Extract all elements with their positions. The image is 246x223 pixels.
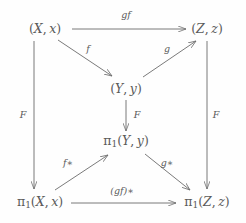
- edge-label-F-left: F: [20, 110, 27, 120]
- edge-label-f: f: [86, 44, 90, 54]
- edge-label-gf: gf: [121, 10, 131, 20]
- edge-label-f-star: f∗: [63, 158, 73, 168]
- node-Z-basepoint: (Z, z): [191, 23, 223, 36]
- node-X-basepoint: (X, x): [29, 23, 61, 36]
- edge-label-F-right: F: [213, 110, 220, 120]
- edge-label-g: g: [164, 44, 170, 54]
- node-pi1-Z: π1(Z, z): [184, 196, 230, 210]
- node-pi1-Y: π1(Y, y): [103, 135, 149, 149]
- edge-label-g-star: g∗: [161, 158, 174, 168]
- edge-label-F-center: F: [134, 110, 141, 120]
- node-pi1-X: π1(X, x): [17, 196, 63, 210]
- node-Y-basepoint: (Y, y): [110, 83, 142, 96]
- edge-label-gf-star: (gf)∗: [110, 186, 133, 196]
- commutative-diagram: (X, x) (Z, z) (Y, y) π1(Y, y) π1(X, x) π…: [0, 0, 246, 223]
- arrow-f: [58, 40, 112, 76]
